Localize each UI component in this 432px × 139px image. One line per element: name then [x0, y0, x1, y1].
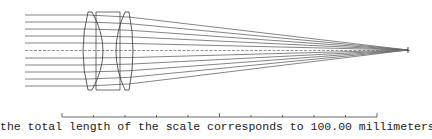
- ray-line: [25, 50, 408, 65]
- scale-caption: the total length of the scale correspond…: [0, 120, 432, 133]
- ray-line: [25, 43, 408, 50]
- optical-diagram: [0, 0, 432, 139]
